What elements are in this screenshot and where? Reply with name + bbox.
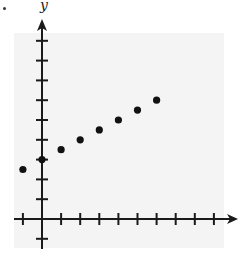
- data-point: [77, 136, 84, 143]
- data-point: [19, 166, 26, 173]
- data-point: [115, 116, 122, 123]
- data-point: [153, 97, 160, 104]
- data-point: [134, 107, 141, 114]
- data-point: [38, 156, 45, 163]
- data-point: [96, 126, 103, 133]
- data-point: [58, 146, 65, 153]
- scatter-plot: [0, 0, 244, 254]
